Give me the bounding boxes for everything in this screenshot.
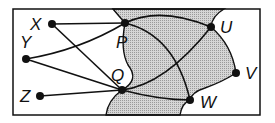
edge-z-q — [40, 90, 122, 96]
node-label-u: U — [220, 18, 233, 37]
node-q — [118, 86, 126, 94]
node-label-w: W — [200, 93, 218, 112]
node-label-q: Q — [111, 66, 124, 85]
node-label-x: X — [29, 15, 42, 34]
node-label-v: V — [245, 64, 258, 83]
node-label-y: Y — [20, 33, 33, 52]
edge-y-q — [26, 59, 122, 90]
node-label-z: Z — [19, 87, 31, 106]
node-label-p: P — [116, 33, 128, 52]
node-p — [121, 19, 129, 27]
node-y — [22, 55, 30, 63]
node-w — [186, 96, 194, 104]
graph-diagram: XYZPQUVW — [0, 0, 275, 123]
node-v — [232, 69, 240, 77]
node-x — [48, 20, 56, 28]
node-z — [36, 92, 44, 100]
edge-x-p — [52, 23, 125, 24]
node-u — [207, 23, 215, 31]
